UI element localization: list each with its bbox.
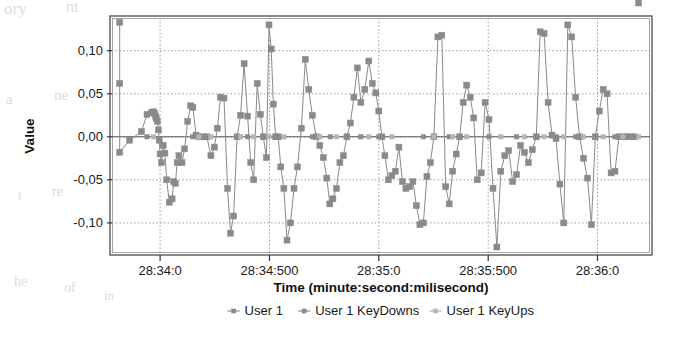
data-point-marker: [482, 99, 488, 105]
data-point-marker: [278, 164, 284, 170]
data-point-marker: [366, 58, 372, 64]
data-point-marker: [399, 179, 405, 185]
data-point-marker: [522, 149, 528, 155]
scan-artifact: of: [64, 280, 76, 295]
data-point-marker: [510, 179, 516, 185]
data-point-marker: [164, 177, 170, 183]
data-point-marker: [554, 135, 558, 139]
data-point-marker: [427, 160, 433, 166]
data-point-marker: [162, 150, 168, 156]
legend-label: User 1 KeyDowns: [315, 303, 420, 318]
data-point-marker: [367, 135, 371, 139]
data-point-marker: [621, 135, 625, 139]
x-axis-label: Time (minute:second:milisecond): [273, 280, 488, 295]
data-point-marker: [117, 80, 123, 86]
data-point-marker: [172, 180, 178, 186]
data-point-marker: [581, 155, 587, 161]
data-point-marker: [494, 244, 500, 250]
data-point-marker: [214, 125, 220, 131]
chart-legend: User 1User 1 KeyDownsUser 1 KeyUps: [228, 303, 535, 318]
data-point-marker: [373, 90, 379, 96]
data-point-marker: [225, 185, 231, 191]
data-point-marker: [231, 213, 237, 219]
data-point-marker: [334, 135, 338, 139]
chart-figure: oryntanetreheofin 0,100,050,00-0,05-0,10…: [0, 0, 694, 342]
data-point-marker: [585, 175, 591, 181]
data-point-marker: [160, 142, 166, 148]
data-point-marker: [443, 184, 449, 190]
data-point-marker: [573, 94, 579, 100]
data-point-marker: [211, 144, 217, 150]
data-point-marker: [565, 22, 571, 28]
data-point-marker: [295, 164, 301, 170]
data-point-marker: [288, 220, 294, 226]
data-point-marker: [369, 80, 375, 86]
data-point-marker: [362, 86, 368, 92]
data-point-marker: [176, 153, 182, 159]
data-point-marker: [377, 135, 381, 139]
data-point-marker: [318, 135, 322, 139]
legend-marker-square: [231, 309, 236, 314]
data-point-marker: [248, 160, 254, 166]
data-point-marker: [245, 113, 251, 119]
data-point-marker: [396, 144, 402, 150]
data-point-marker: [545, 99, 551, 105]
data-point-marker: [251, 177, 257, 183]
data-point-marker: [593, 135, 597, 139]
y-tick-label: 0,10: [78, 43, 103, 58]
legend-item-1[interactable]: User 1 KeyDowns: [298, 303, 420, 318]
data-point-marker: [238, 135, 242, 139]
data-point-marker: [465, 135, 469, 139]
data-point-marker: [333, 185, 339, 191]
legend-item-0[interactable]: User 1: [228, 303, 283, 318]
data-point-marker: [467, 94, 473, 100]
data-point-marker: [514, 135, 518, 139]
data-point-marker: [117, 149, 123, 155]
legend-item-2[interactable]: User 1 KeyUps: [430, 303, 535, 318]
data-point-marker: [252, 135, 256, 139]
data-point-marker: [410, 179, 416, 185]
y-tick-layer: 0,100,050,00-0,05-0,10: [73, 43, 112, 230]
data-point-marker: [518, 142, 524, 148]
legend-marker-square: [433, 309, 438, 314]
data-point-marker: [358, 99, 364, 105]
data-point-marker: [245, 135, 249, 139]
data-point-marker: [330, 196, 336, 202]
data-point-marker: [179, 160, 185, 166]
data-point-marker: [421, 135, 425, 139]
data-point-marker: [310, 135, 314, 139]
y-tick-label: 0,05: [78, 86, 103, 101]
chart-svg: oryntanetreheofin 0,100,050,00-0,05-0,10…: [0, 0, 694, 342]
data-point-marker: [487, 135, 491, 139]
data-point-marker: [317, 142, 323, 148]
data-point-marker: [573, 135, 577, 139]
data-point-marker: [474, 177, 480, 183]
data-point-marker: [604, 91, 610, 97]
plot-container: oryntanetreheofin 0,100,050,00-0,05-0,10…: [0, 0, 694, 342]
data-point-marker: [636, 0, 642, 6]
data-point-marker: [420, 220, 426, 226]
data-point-marker: [499, 135, 503, 139]
data-point-marker: [506, 148, 512, 154]
data-point-marker: [581, 135, 585, 139]
data-point-marker: [267, 135, 271, 139]
data-point-marker: [241, 61, 247, 67]
data-point-marker: [328, 135, 332, 139]
data-point-marker: [205, 135, 209, 139]
x-tick-layer: 28:34:028:34:50028:35:028:35:50028:36:0: [138, 255, 619, 278]
data-point-marker: [636, 135, 640, 139]
y-tick-label: -0,05: [73, 172, 103, 187]
data-point-marker: [266, 22, 272, 28]
data-point-marker: [561, 220, 567, 226]
data-point-marker: [209, 135, 213, 139]
data-point-marker: [534, 135, 538, 139]
data-point-marker: [151, 135, 155, 139]
data-point-marker: [446, 201, 452, 207]
data-point-marker: [145, 135, 149, 139]
data-point-marker: [354, 65, 360, 71]
data-point-marker: [254, 80, 260, 86]
data-point-marker: [324, 175, 330, 181]
data-point-marker: [340, 153, 346, 159]
x-tick-label: 28:34:500: [241, 263, 299, 278]
data-point-marker: [197, 135, 201, 139]
